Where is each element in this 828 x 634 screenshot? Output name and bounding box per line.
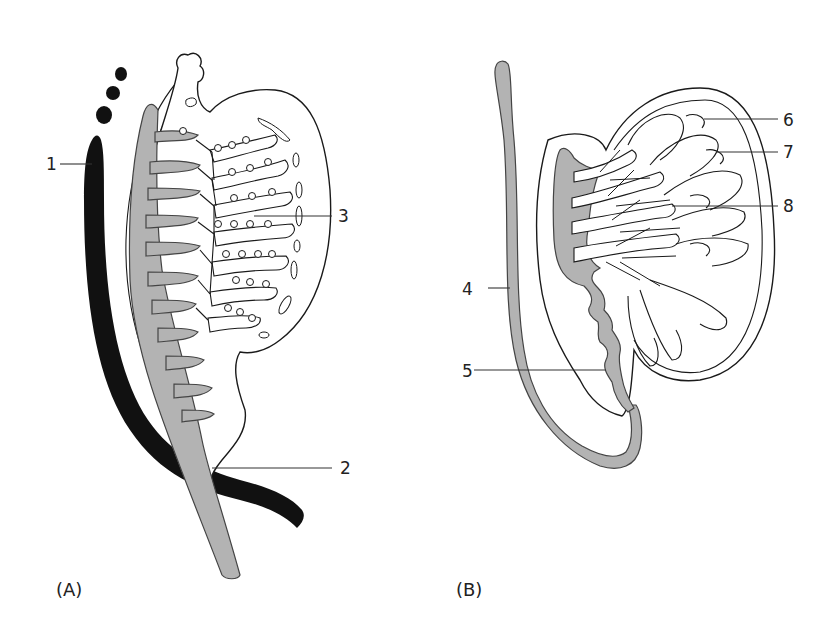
panel-caption-a: (A) [56, 579, 82, 600]
panel-a: 1 2 3 (A) [46, 53, 351, 600]
label-2: 2 [340, 458, 351, 478]
label-8: 8 [783, 196, 794, 216]
label-1: 1 [46, 154, 57, 174]
panel-b: 4 5 6 7 8 (B) [456, 61, 794, 600]
label-5: 5 [462, 361, 473, 381]
panel-caption-b: (B) [456, 579, 482, 600]
diagram-canvas: 1 2 3 (A) [0, 0, 828, 634]
label-6: 6 [783, 110, 794, 130]
label-4: 4 [462, 279, 473, 299]
label-3: 3 [338, 206, 349, 226]
dark-dot [115, 67, 127, 81]
label-7: 7 [783, 142, 794, 162]
dark-dot [96, 106, 112, 124]
dark-dot [106, 86, 120, 100]
